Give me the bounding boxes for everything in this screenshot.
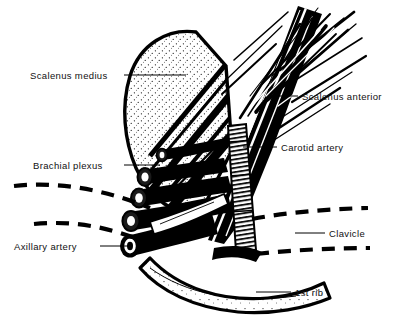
label-scalenus-medius: Scalenus medius (30, 71, 108, 81)
label-first-rib: 1st rib (295, 288, 323, 298)
label-scalenus-anterior: Scalenus anterior (302, 92, 382, 102)
label-brachial-plexus: Brachial plexus (33, 161, 103, 171)
label-clavicle: Clavicle (329, 229, 365, 239)
anatomical-figure: Scalenus medius Brachial plexus Axillary… (0, 0, 396, 322)
label-axillary-artery: Axillary artery (14, 242, 77, 252)
label-carotid-artery: Carotid artery (281, 143, 343, 153)
